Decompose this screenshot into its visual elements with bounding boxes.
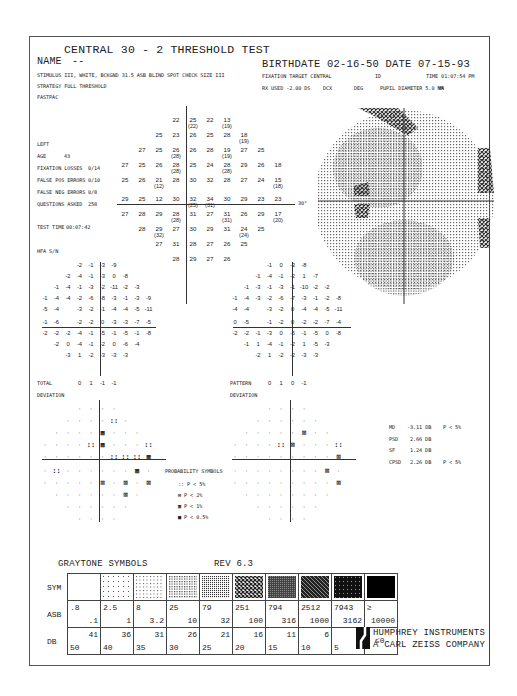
threshold-value: 28 <box>135 211 149 217</box>
asb-upper: 25 <box>169 603 179 612</box>
threshold-value: 29(32) <box>152 226 166 238</box>
sym-2 <box>134 574 167 601</box>
threshold-value: 29 <box>254 211 268 217</box>
probability-symbol-icon: ▦ <box>142 453 156 461</box>
threshold-value: 30 <box>169 196 183 202</box>
threshold-value: 32(25) <box>186 196 200 208</box>
sym-5 <box>233 574 266 601</box>
threshold-value: 15(18) <box>271 177 285 189</box>
db-lower: 35 <box>136 643 146 652</box>
threshold-value: 26 <box>186 147 200 153</box>
sym-7 <box>299 574 332 601</box>
db-upper: 21 <box>220 630 230 639</box>
stimulus-line: STIMULUS III, WHITE, BCKGND 31.5 ASB BLI… <box>37 72 224 78</box>
normal-point-icon: · <box>130 491 144 498</box>
asb-cell: 83.2 <box>134 601 167 628</box>
threshold-value: 31 <box>169 241 183 247</box>
threshold-value: 29 <box>186 256 200 262</box>
questions-asked-value: 258 <box>88 201 97 207</box>
fixation-target: FIXATION TARGET CENTRAL <box>262 73 332 79</box>
threshold-value: 31 <box>186 211 200 217</box>
asb-lower: 10000 <box>371 616 395 625</box>
asb-cell: .8.1 <box>68 601 101 628</box>
threshold-value: 29 <box>203 226 217 232</box>
brand-line-2: A CARL ZEISS COMPANY <box>373 640 485 650</box>
fixation-losses-label: FIXATION LOSSES <box>37 165 82 171</box>
threshold-value: 34(31) <box>203 196 217 208</box>
md-label: MD <box>389 424 395 430</box>
test-time-value: 00:07:42 <box>66 224 90 230</box>
threshold-value: 21(12) <box>152 177 166 189</box>
total-deviation-value: -3 <box>119 352 133 358</box>
fastpac-label: FASTPAC <box>37 94 58 100</box>
pupil-diameter: PUPIL DIAMETER 5.0 MM <box>380 85 444 91</box>
false-neg-value: 0/8 <box>88 189 97 195</box>
md-value: -3.11 DB <box>407 424 431 430</box>
pd-horizontal-axis <box>233 327 351 328</box>
va-label: VA <box>438 85 444 91</box>
probability-symbol-icon: :: <box>332 441 346 449</box>
threshold-value: 29 <box>118 196 132 202</box>
p1-symbol-icon: ▦ <box>178 503 181 509</box>
db-cell: 2630 <box>167 628 200 655</box>
asb-upper: 7943 <box>334 603 353 612</box>
threshold-value: 28 <box>186 241 200 247</box>
asb-upper: 794 <box>268 603 282 612</box>
db-upper: 26 <box>187 630 197 639</box>
threshold-value: 28(28) <box>169 162 183 174</box>
dcx-label: DCX <box>323 85 332 91</box>
db-upper: 11 <box>286 630 296 639</box>
normal-point-icon: · <box>130 429 144 436</box>
graytone-map <box>318 108 510 304</box>
threshold-value: 24 <box>254 177 268 183</box>
threshold-value: 28 <box>220 177 234 183</box>
hfa-sn-label: HFA S/N <box>37 248 58 254</box>
threshold-value: 30 <box>186 226 200 232</box>
db-lower: 15 <box>268 643 278 652</box>
asb-cell: 79433162 <box>332 601 365 628</box>
threshold-value: 26 <box>135 177 149 183</box>
asb-lower: 3.2 <box>150 616 164 625</box>
threshold-value: 31 <box>220 226 234 232</box>
total-deviation-value: -9 <box>107 262 121 268</box>
normal-point-icon: · <box>309 417 323 424</box>
p1-label: P < 1% <box>184 503 202 509</box>
sym-6 <box>266 574 299 601</box>
asb-lower: 32 <box>220 616 230 625</box>
humphrey-logo-icon <box>356 627 370 649</box>
total-deviation-value: -9 <box>142 295 156 301</box>
threshold-value: 25 <box>118 177 132 183</box>
psd-label: PSD <box>389 436 398 442</box>
threshold-value: 27 <box>118 211 132 217</box>
threshold-value: 26 <box>220 241 234 247</box>
db-label: DB <box>47 628 68 655</box>
pattern-deviation-value: -11 <box>332 306 346 312</box>
rev-label: REV 6.3 <box>214 559 253 569</box>
threshold-value: 27 <box>203 211 217 217</box>
axis-label-30deg: 30° <box>298 200 307 206</box>
asb-upper: ≥ <box>367 603 372 612</box>
threshold-value: 29 <box>237 196 251 202</box>
deg-label: DEG <box>354 85 363 91</box>
threshold-value: 25 <box>254 147 268 153</box>
sym-8 <box>332 574 365 601</box>
db-cell: 610 <box>299 628 332 655</box>
threshold-value: 23 <box>169 132 183 138</box>
threshold-value: 28(28) <box>169 211 183 223</box>
total-deviation-value: -4 <box>50 306 64 312</box>
asb-lower: 100 <box>249 616 263 625</box>
threshold-value: 27 <box>203 241 217 247</box>
name-label: NAME <box>37 56 62 67</box>
threshold-value: 27 <box>135 147 149 153</box>
threshold-value: 23 <box>271 196 285 202</box>
asb-lower: 3162 <box>343 616 362 625</box>
threshold-value: 27 <box>237 147 251 153</box>
p2-symbol-icon: ⊠ <box>178 492 181 498</box>
asb-row: ASB .8.12.5183.2251079322511007943162512… <box>47 601 398 628</box>
threshold-value: 22 <box>203 117 217 123</box>
db-upper: 41 <box>88 630 98 639</box>
threshold-value: 29 <box>237 162 251 168</box>
pattern-deviation-value: -2 <box>320 284 334 290</box>
total-deviation-value: -3 <box>130 284 144 290</box>
pattern-deviation-value: -3 <box>309 352 323 358</box>
